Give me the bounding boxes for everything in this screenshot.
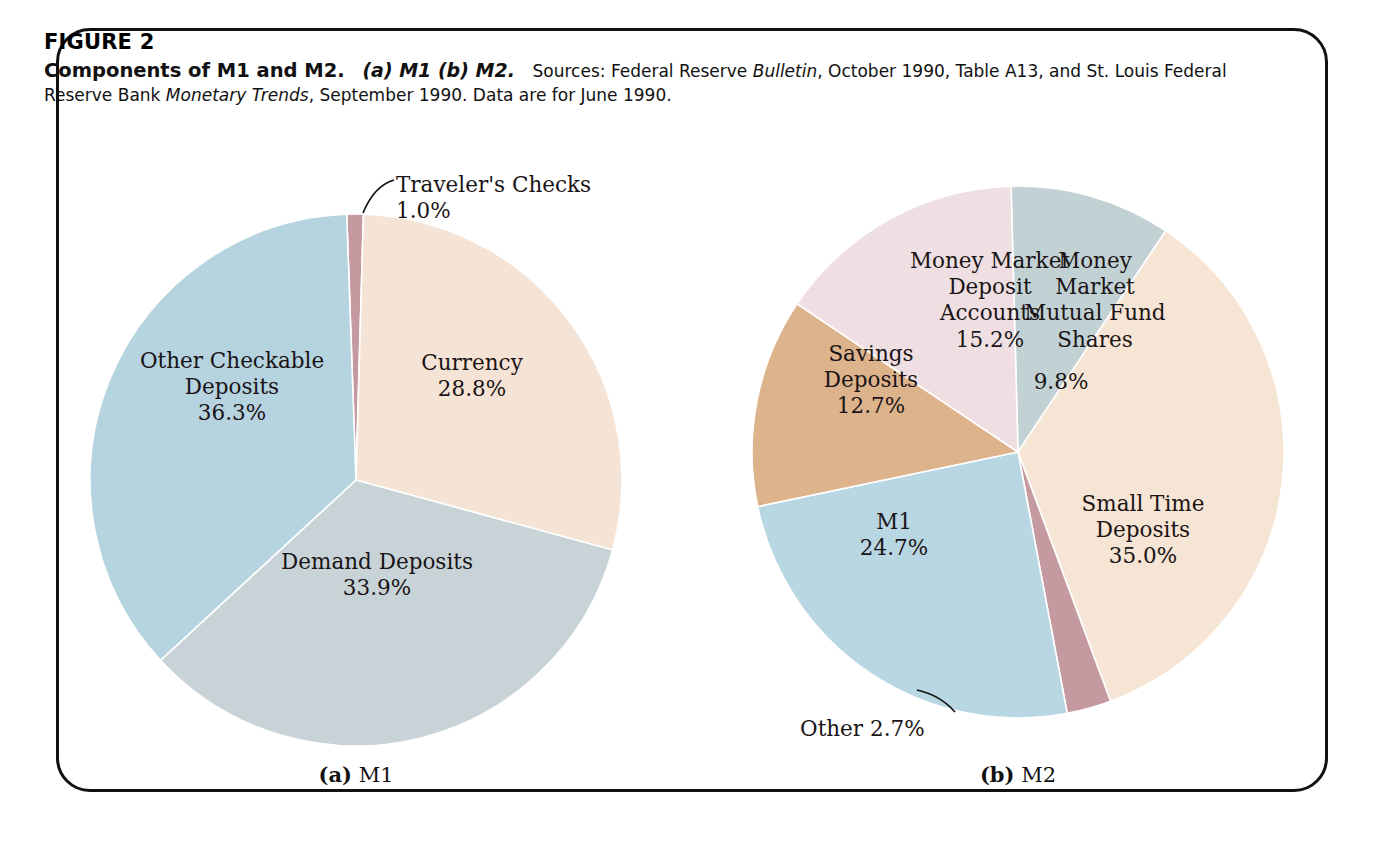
- pie-label-other: Other 2.7%: [800, 716, 925, 742]
- pie-label-money-market-deposit-accounts: Money Market Deposit Accounts 15.2%: [910, 248, 1070, 353]
- pie-label-small-time-deposits: Small Time Deposits 35.0%: [1082, 491, 1205, 570]
- figure-source-monetary-trends: Monetary Trends: [166, 85, 309, 105]
- figure-caption-body: Components of M1 and M2. (a) M1 (b) M2. …: [44, 58, 1234, 107]
- subcaption-b-marker: (b): [980, 762, 1015, 787]
- pie-label-travelers-checks: Traveler's Checks 1.0%: [396, 172, 591, 224]
- subcaption-a-label: M1: [359, 763, 394, 787]
- subcaption-a: (a) M1: [318, 762, 393, 787]
- figure-source-prefix: Sources: Federal Reserve: [533, 61, 753, 81]
- pie-label-money-market-mutual-fund-shares-value: 9.8%: [1034, 369, 1089, 395]
- figure-source-bulletin: Bulletin: [753, 61, 818, 81]
- figure-title: Components of M1 and M2.: [44, 59, 345, 82]
- figure-parts: (a) M1 (b) M2.: [362, 59, 514, 81]
- pie-label-demand-deposits: Demand Deposits 33.9%: [281, 549, 473, 601]
- pie-label-savings-deposits: Savings Deposits 12.7%: [824, 341, 918, 420]
- figure-caption: FIGURE 2 Components of M1 and M2. (a) M1…: [44, 30, 1234, 107]
- subcaption-a-marker: (a): [318, 762, 351, 787]
- subcaption-b-label: M2: [1021, 763, 1056, 787]
- pie-label-other-checkable-deposits: Other Checkable Deposits 36.3%: [140, 348, 324, 427]
- figure-number: FIGURE 2: [44, 30, 1234, 55]
- subcaption-b: (b) M2: [980, 762, 1056, 787]
- pie-label-currency: Currency 28.8%: [421, 350, 523, 402]
- pie-label-m1-share: M1 24.7%: [860, 509, 928, 561]
- figure-source-suffix: , September 1990. Data are for June 1990…: [309, 85, 672, 105]
